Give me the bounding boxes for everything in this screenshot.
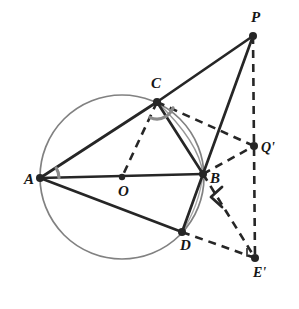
point-label-A: A	[23, 171, 34, 187]
point-label-O: O	[118, 183, 129, 199]
vertex-dot-O	[119, 174, 125, 180]
point-label-Qprime: Q'	[261, 140, 275, 155]
vertex-dot-Eprime	[251, 254, 259, 262]
vertex-dot-D	[178, 228, 186, 236]
point-label-B: B	[209, 170, 220, 186]
point-label-C: C	[151, 75, 162, 91]
vertex-dot-Qprime	[250, 142, 258, 150]
point-label-D: D	[179, 237, 191, 253]
geometry-diagram-svg: ACBDOPQ'E'	[0, 0, 299, 309]
vertex-dot-C	[153, 98, 161, 106]
vertex-dot-A	[36, 174, 44, 182]
point-label-P: P	[251, 9, 261, 25]
vertex-dot-B	[199, 170, 207, 178]
geometry-figure: ACBDOPQ'E'	[0, 0, 299, 309]
point-label-Eprime: E'	[252, 265, 266, 280]
vertex-dot-P	[249, 32, 257, 40]
